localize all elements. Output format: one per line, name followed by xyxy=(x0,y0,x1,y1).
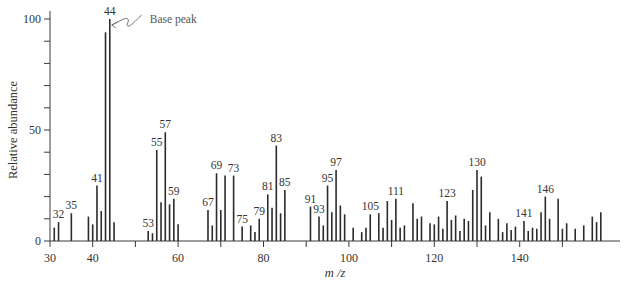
peak-label: 130 xyxy=(468,156,486,168)
x-tick-label: 120 xyxy=(425,251,443,265)
x-tick-label: 140 xyxy=(511,251,529,265)
peak-label: 83 xyxy=(271,132,283,144)
annotation-text: Base peak xyxy=(150,13,197,26)
x-tick-label: 30 xyxy=(44,251,56,265)
x-tick-label: 40 xyxy=(87,251,99,265)
peak-label: 32 xyxy=(53,208,65,220)
peak-label: 95 xyxy=(322,172,334,184)
peak-label: 85 xyxy=(279,176,291,188)
peak-label: 67 xyxy=(202,196,214,208)
peak-label: 44 xyxy=(104,5,116,17)
x-tick-label: 80 xyxy=(258,251,270,265)
peak-label: 35 xyxy=(66,199,78,211)
x-axis: 30406080100120140 xyxy=(44,241,620,265)
annotation-arrow xyxy=(112,15,142,28)
y-axis: 050100 xyxy=(23,11,50,248)
peak-label: 69 xyxy=(211,159,223,171)
peak-label: 59 xyxy=(168,185,180,197)
peak-label: 105 xyxy=(362,200,380,212)
x-tick-label: 100 xyxy=(340,251,358,265)
peak-label: 73 xyxy=(228,162,240,174)
y-tick-label: 100 xyxy=(23,12,41,26)
peak-label: 81 xyxy=(262,180,274,192)
peak-label: 93 xyxy=(313,203,325,215)
peak-label: 55 xyxy=(151,136,163,148)
peak-label: 97 xyxy=(330,156,342,168)
peak-label: 79 xyxy=(253,205,265,217)
y-tick-label: 0 xyxy=(35,234,41,248)
peak-label: 146 xyxy=(537,183,555,195)
x-tick-label: 60 xyxy=(172,251,184,265)
mass-spectrum-chart: 050100 30406080100120140 323541445355575… xyxy=(0,0,630,289)
peak-label: 53 xyxy=(142,217,154,229)
peak-label: 111 xyxy=(388,185,405,197)
peak-label: 123 xyxy=(438,187,456,199)
peak-label: 41 xyxy=(91,172,103,184)
y-tick-label: 50 xyxy=(29,123,41,137)
peak-label: 141 xyxy=(515,207,533,219)
peak-label: 57 xyxy=(160,118,172,130)
base-peak-annotation: Base peak xyxy=(112,13,197,28)
x-axis-title: m /z xyxy=(325,266,346,280)
peak-labels: 3235414453555759676973757981838591939597… xyxy=(53,5,554,229)
y-axis-title: Relative abundance xyxy=(6,80,20,179)
peak-label: 75 xyxy=(236,213,248,225)
